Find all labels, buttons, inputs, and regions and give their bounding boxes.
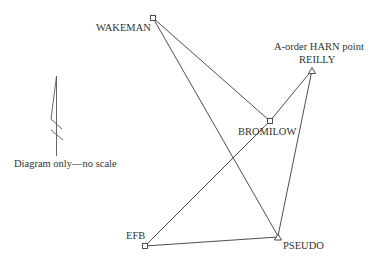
reilly-annotation-label: A-order HARN point [274,41,364,52]
edge-reilly-pseudo [278,70,312,236]
wakeman-label: WAKEMAN [96,22,151,33]
bromilow-label: BROMILOW [238,126,296,137]
bromilow-square-icon [268,119,273,124]
pseudo-label: PSEUDO [283,240,324,251]
station-labels: WAKEMAN A-order HARN point REILLY BROMIL… [96,22,364,251]
efb-label: EFB [126,230,145,241]
wakeman-square-icon [151,16,156,21]
edge-bromilow-reilly [270,70,312,121]
edge-wakeman-bromilow [153,18,270,121]
efb-square-icon [143,244,148,249]
edge-bromilow-efb [145,121,270,246]
traverse-diagram: WAKEMAN A-order HARN point REILLY BROMIL… [0,0,384,263]
reilly-label: REILLY [299,54,336,65]
reilly-triangle-icon [309,68,316,74]
north-arrow-icon [51,76,63,156]
scale-note: Diagram only—no scale [14,158,117,169]
edge-efb-pseudo [145,237,278,246]
